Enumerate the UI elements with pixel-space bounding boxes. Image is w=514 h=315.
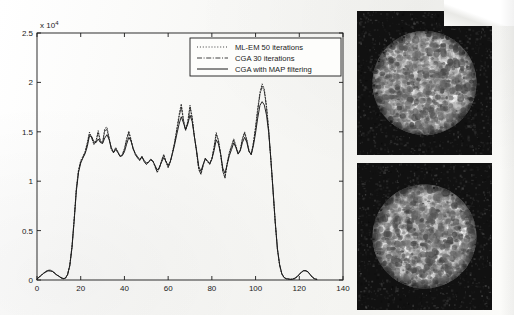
x-tick-label: 60 [164,284,173,293]
reconstruction-image-bottom [357,163,492,310]
y-tick-label: 0 [29,276,34,285]
y-tick-label: 1.5 [22,128,34,137]
x-tick-label: 140 [336,284,350,293]
x-tick-label: 0 [35,284,40,293]
page-edge-shadow [500,0,514,315]
y-tick-label: 2.5 [22,29,34,38]
series-line-1 [37,84,317,280]
legend-label-3: CGA with MAP filtering [235,65,312,74]
line-chart-panel: 02040608010012014000.511.522.5x 104ML-EM… [0,0,352,315]
series-line-2 [37,86,317,279]
figure-page: 02040608010012014000.511.522.5x 104ML-EM… [0,0,514,315]
y-tick-label: 0.5 [22,227,34,236]
x-tick-label: 100 [249,284,263,293]
legend-label-1: ML-EM 50 iterations [235,43,303,52]
x-tick-label: 120 [293,284,307,293]
reconstruction-bottom-canvas [357,163,492,310]
y-tick-label: 2 [29,78,34,87]
x-tick-label: 40 [120,284,129,293]
x-tick-label: 80 [207,284,216,293]
reconstruction-top-canvas [357,11,492,155]
legend-label-2: CGA 30 iterations [235,54,295,63]
profile-plot: 02040608010012014000.511.522.5x 104ML-EM… [0,0,352,315]
y-axis-exponent-label: x 104 [40,20,59,31]
x-tick-label: 20 [76,284,85,293]
y-tick-label: 1 [29,177,34,186]
reconstruction-image-top [357,11,492,155]
